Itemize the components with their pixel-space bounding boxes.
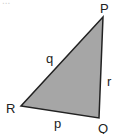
side-label-r: r	[107, 74, 112, 89]
side-label-q: q	[46, 51, 53, 66]
triangle-pqr	[21, 17, 103, 118]
cut-off-top-text: ...	[2, 0, 10, 6]
side-label-p: p	[54, 116, 61, 131]
vertex-label-r: R	[6, 101, 15, 116]
triangle-diagram: ... P Q R q r p	[0, 0, 121, 134]
vertex-label-p: P	[100, 1, 109, 16]
vertex-label-q: Q	[98, 121, 108, 134]
